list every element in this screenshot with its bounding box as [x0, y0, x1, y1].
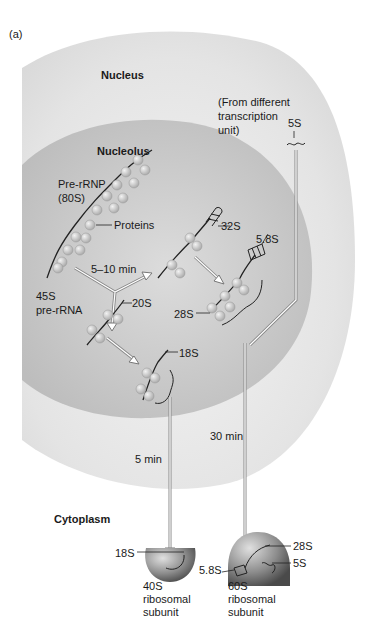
subunit-40s-size: 40S [143, 580, 163, 592]
subunit-60s-size: 60S [228, 580, 248, 592]
label-28s: 28S [174, 308, 194, 320]
pre-rrna-label: pre-rRNA [36, 304, 82, 316]
label-5s: 5S [288, 117, 301, 129]
label-5-8s: 5.8S [256, 233, 279, 245]
subunit-40s-line2: ribosomal [143, 593, 191, 605]
panel-label: (a) [9, 28, 22, 40]
time-5-10-label: 5–10 min [91, 263, 136, 275]
small-subunit-40s [137, 548, 196, 582]
time-30-label: 30 min [210, 430, 243, 442]
proteins-label: Proteins [114, 219, 154, 231]
label-32s: 32S [221, 220, 241, 232]
subunit-60s-5-8s: 5.8S [199, 564, 222, 576]
from-different-line2: transcription [218, 110, 278, 122]
subunit-60s-5s: 5S [293, 557, 306, 569]
from-different-line1: (From different [218, 96, 290, 108]
nucleolus-label: Nucleolus [97, 145, 150, 157]
large-subunit-60s [222, 532, 291, 586]
subunit-40s-line3: subunit [143, 606, 178, 618]
nucleus-label: Nucleus [101, 69, 144, 81]
label-18s: 18S [179, 347, 199, 359]
subunit-60s-line3: subunit [228, 606, 263, 618]
label-20s: 20S [132, 297, 152, 309]
pre-rrnp-label: Pre-rRNP [58, 178, 106, 190]
subunit-40s-rna: 18S [115, 547, 135, 559]
nucleolus-region [22, 120, 312, 418]
pre-rrna-size: 45S [36, 290, 56, 302]
from-different-line3: unit) [218, 124, 239, 136]
time-5-label: 5 min [135, 453, 162, 465]
cytoplasm-label: Cytoplasm [54, 513, 110, 525]
pre-rrnp-size: (80S) [58, 192, 85, 204]
subunit-60s-28s: 28S [293, 540, 313, 552]
subunit-60s-line2: ribosomal [228, 593, 276, 605]
